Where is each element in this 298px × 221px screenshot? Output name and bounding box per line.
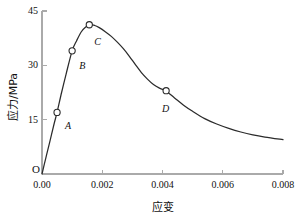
x-axis-tick-label: 0.002 xyxy=(82,180,122,190)
x-axis-tick-label: 0.004 xyxy=(143,180,183,190)
data-point-marker-a xyxy=(54,109,60,115)
stress-strain-chart: 153045 0.000.0020.0040.0060.008 ABCD O 应… xyxy=(0,0,298,221)
y-axis-tick-label: 15 xyxy=(18,115,38,125)
axes-group xyxy=(42,11,283,174)
x-axis-tick-label: 0.00 xyxy=(22,180,62,190)
data-point-marker-c xyxy=(86,22,92,28)
data-point-label-c: C xyxy=(94,37,101,47)
data-point-marker-d xyxy=(163,88,169,94)
y-axis-tick-label: 30 xyxy=(18,60,38,70)
axis-ticks xyxy=(42,11,283,174)
data-point-markers xyxy=(54,22,169,116)
y-axis-title: 应力/MPa xyxy=(8,72,19,120)
origin-label: O xyxy=(32,164,40,175)
data-point-marker-b xyxy=(69,48,75,54)
stress-strain-curve xyxy=(42,25,283,174)
x-axis-title: 应变 xyxy=(123,202,203,213)
x-axis-tick-label: 0.008 xyxy=(263,180,298,190)
data-point-label-d: D xyxy=(162,104,169,114)
data-point-label-a: A xyxy=(65,121,71,131)
x-axis-tick-label: 0.006 xyxy=(203,180,243,190)
data-curve xyxy=(42,25,283,174)
y-axis-tick-label: 45 xyxy=(18,6,38,16)
data-point-label-b: B xyxy=(79,61,85,71)
